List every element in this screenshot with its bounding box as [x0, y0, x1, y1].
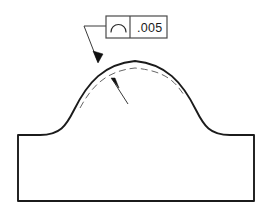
leader-to-actual-surface: [84, 26, 106, 62]
leader-to-tolerance-zone: [112, 79, 128, 104]
tolerance-value: .005: [137, 21, 163, 35]
feature-control-frame[interactable]: .005: [106, 16, 167, 38]
leader-arrowhead-surface: [93, 51, 103, 63]
leader-arrowhead-tolerance-zone: [111, 78, 119, 88]
drawing-svg: .005: [0, 0, 271, 221]
technical-drawing-canvas: .005: [0, 0, 271, 221]
part-outline: [18, 61, 254, 201]
